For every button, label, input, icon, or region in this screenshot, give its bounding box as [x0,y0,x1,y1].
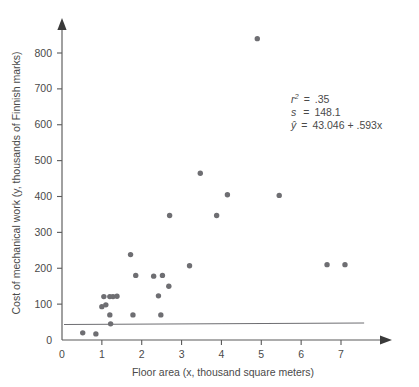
y-tick-label: 100 [34,298,52,310]
x-axis-title: Floor area (x, thousand square meters) [132,366,314,378]
r-squared-annotation: r2=.35 [291,92,330,105]
scatter-plot-figure: 0100200300400500600700800 01234567 Floor… [0,0,419,387]
data-point [198,170,203,175]
x-tick-label: 2 [139,348,145,360]
x-axis-ticks: 01234567 [59,340,344,360]
data-point [324,262,329,267]
y-hat-equals: = [301,119,307,131]
data-point [167,213,172,218]
r-squared-exponent: 2 [294,92,300,101]
data-point [130,312,135,317]
data-point [93,331,98,336]
data-point [166,283,171,288]
data-point [225,192,230,197]
r-squared-equals: = [304,93,310,105]
regression-equation-annotation: ŷ=43.046 + .593x [290,119,383,131]
s-symbol: s [291,106,297,118]
data-point [128,252,133,257]
y-tick-label: 300 [34,226,52,238]
data-point [187,263,192,268]
y-tick-label: 500 [34,154,52,166]
x-tick-label: 0 [59,348,65,360]
y-tick-label: 0 [46,334,52,346]
y-axis-ticks: 0100200300400500600700800 [34,47,62,346]
data-point [133,273,138,278]
data-point [158,312,163,317]
x-axis-arrow-icon [380,335,392,344]
data-point [160,273,165,278]
data-points-group [80,36,348,337]
s-equals: = [303,106,309,118]
y-tick-label: 700 [34,82,52,94]
s-annotation: s=148.1 [291,106,341,118]
statistics-annotation: r2=.35 s=148.1 ŷ=43.046 + .593x [290,92,383,131]
x-tick-label: 1 [99,348,105,360]
s-value: 148.1 [314,106,340,118]
x-tick-label: 3 [179,348,185,360]
data-point [342,262,347,267]
data-point [156,293,161,298]
x-tick-label: 7 [338,348,344,360]
y-tick-label: 400 [34,190,52,202]
y-tick-label: 600 [34,118,52,130]
data-point [277,193,282,198]
data-point [101,294,106,299]
plot-canvas: 0100200300400500600700800 01234567 Floor… [0,0,419,387]
data-point [103,302,108,307]
x-tick-label: 6 [298,348,304,360]
x-tick-label: 5 [258,348,264,360]
y-tick-label: 200 [34,262,52,274]
r-squared-value: .35 [315,93,330,105]
data-point [151,273,156,278]
data-point [80,330,85,335]
y-axis-arrow-icon [57,18,66,30]
x-tick-label: 4 [219,348,225,360]
y-hat-value: 43.046 + .593x [312,119,383,131]
data-point [255,36,260,41]
data-point [214,213,219,218]
data-point [108,321,113,326]
y-tick-label: 800 [34,47,52,59]
data-point [107,312,112,317]
y-axis-title: Cost of mechanical work (y, thousands of… [10,52,22,315]
data-point [114,294,119,299]
y-hat-symbol: ŷ [290,119,297,131]
